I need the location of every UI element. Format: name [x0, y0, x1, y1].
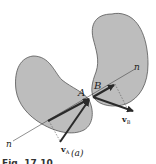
contact-bodies-figure: A B n n vA vB (a) Fig. 17.10 [0, 0, 156, 164]
velocity-B-label: vB [121, 114, 131, 125]
point-label-B: B [93, 80, 101, 91]
figure-caption: Fig. 17.10 [2, 158, 53, 164]
normal-label-start: n [6, 139, 12, 149]
point-label-A: A [77, 87, 85, 98]
velocity-A-label: vA [60, 144, 70, 155]
normal-label-end: n [134, 62, 140, 72]
subfigure-label: (a) [71, 148, 84, 158]
